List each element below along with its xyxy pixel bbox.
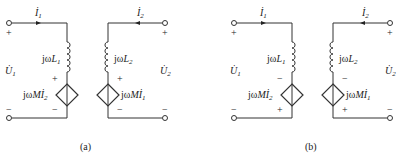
inductor-l1-label: jωL1	[41, 53, 60, 66]
source-top-sign: −	[342, 73, 348, 84]
source-bottom-sign: +	[342, 104, 348, 115]
inductor-l1-icon	[292, 42, 295, 72]
terminal-icon	[232, 21, 237, 26]
source-top-sign: +	[52, 73, 58, 84]
voltage-u1-label: U̇1	[230, 65, 241, 78]
current-arrow-icon	[261, 21, 266, 25]
terminal-icon	[388, 21, 393, 26]
inductor-l2-label: jωL2	[113, 53, 133, 66]
source-bottom-sign: +	[277, 104, 283, 115]
diagram-a: İ1 İ2 + − U̇1 + − U̇2 jωL1 jωL2 + − jωMİ…	[5, 7, 171, 153]
inductor-l2-icon	[330, 42, 333, 72]
voltage-u2-label: U̇2	[160, 65, 171, 78]
diagram-b: İ1 İ2 + − U̇1 + − U̇2 jωL1 jωL2 − + jωMİ…	[230, 7, 396, 153]
plus-sign: +	[231, 27, 237, 38]
current-i2-label: İ2	[136, 7, 144, 20]
inductor-l2-label: jωL2	[338, 53, 358, 66]
source-bottom-sign: −	[117, 104, 123, 115]
terminal-icon	[7, 116, 12, 121]
minus-sign: −	[231, 104, 237, 115]
inductor-l2-icon	[105, 42, 108, 72]
plus-sign: +	[387, 27, 393, 38]
plus-sign: +	[6, 27, 12, 38]
source-mi2-label: jωMİ2	[22, 89, 48, 102]
voltage-u1-label: U̇1	[5, 65, 16, 78]
inductor-l1-label: jωL1	[266, 53, 285, 66]
plus-sign: +	[162, 27, 168, 38]
current-i1-label: İ1	[259, 7, 267, 20]
minus-sign: −	[162, 104, 168, 115]
source-bottom-sign: −	[52, 104, 58, 115]
minus-sign: −	[387, 104, 393, 115]
current-i2-label: İ2	[361, 7, 369, 20]
current-i1-label: İ1	[34, 7, 42, 20]
inductor-l1-icon	[67, 42, 70, 72]
source-mi2-label: jωMİ2	[247, 89, 273, 102]
terminal-icon	[163, 116, 168, 121]
coupled-inductor-equivalent-circuits: İ1 İ2 + − U̇1 + − U̇2 jωL1 jωL2 + − jωMİ…	[0, 0, 399, 160]
source-mi1-label: jωMİ1	[120, 89, 146, 102]
source-top-sign: +	[117, 73, 123, 84]
current-arrow-icon	[135, 21, 140, 25]
terminal-icon	[163, 21, 168, 26]
current-arrow-icon	[360, 21, 365, 25]
source-top-sign: −	[277, 73, 283, 84]
current-arrow-icon	[36, 21, 41, 25]
terminal-icon	[388, 116, 393, 121]
terminal-icon	[7, 21, 12, 26]
voltage-u2-label: U̇2	[385, 65, 396, 78]
source-mi1-label: jωMİ1	[345, 89, 371, 102]
minus-sign: −	[6, 104, 12, 115]
caption-b: (b)	[305, 141, 317, 153]
caption-a: (a)	[80, 141, 91, 153]
terminal-icon	[232, 116, 237, 121]
